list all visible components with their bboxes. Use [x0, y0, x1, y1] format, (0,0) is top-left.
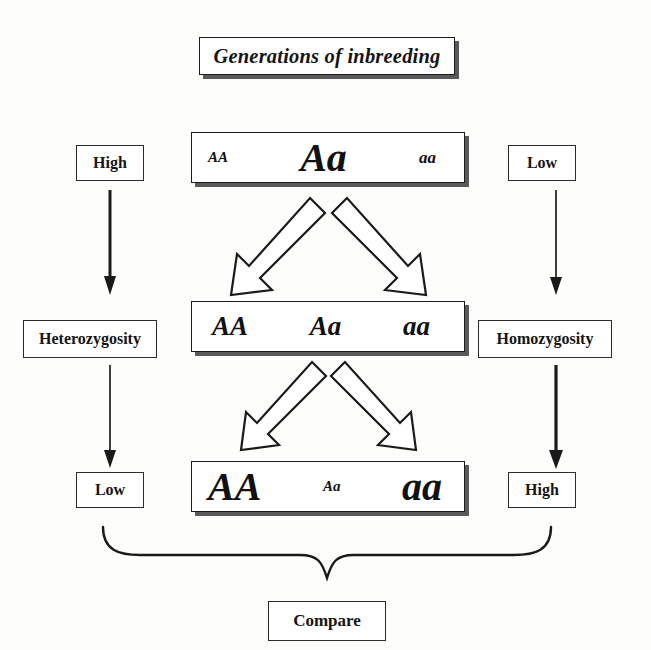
generation-row-2: AA Aa aa [191, 301, 465, 352]
genotype-Aa: Aa [323, 479, 341, 494]
left-bottom-level-box: Low [76, 472, 144, 508]
right-top-level-box: Low [508, 145, 576, 181]
homozygosity-box: Homozygosity [478, 320, 612, 358]
diagram-title-box: Generations of inbreeding [199, 37, 455, 75]
right-arrow-low-to-homozygosity [550, 190, 562, 295]
genotype-AA: AA [208, 467, 261, 507]
block-arrow-down-right-1 [332, 198, 426, 295]
heterozygosity-label: Heterozygosity [39, 330, 141, 348]
left-top-level-label: High [93, 154, 127, 172]
right-arrow-homozygosity-to-high [549, 365, 563, 469]
diagram-canvas: Generations of inbreeding AA Aa aa AA Aa… [0, 0, 651, 650]
right-top-level-label: Low [527, 154, 557, 172]
heterozygosity-box: Heterozygosity [23, 320, 157, 358]
compare-label: Compare [293, 611, 361, 631]
block-arrow-down-left-2 [241, 362, 326, 450]
genotype-Aa: Aa [300, 138, 347, 178]
convergence-brace [103, 527, 551, 578]
left-arrow-heterozygosity-to-low [104, 365, 116, 468]
generation-row-1: AA Aa aa [191, 132, 465, 183]
diagram-title-label: Generations of inbreeding [213, 45, 440, 68]
right-bottom-level-label: High [525, 481, 559, 499]
compare-box: Compare [268, 601, 386, 641]
block-arrow-down-right-2 [331, 362, 416, 450]
block-arrow-down-left-1 [231, 198, 325, 295]
genotype-aa: aa [402, 467, 442, 507]
left-arrow-high-to-heterozygosity [104, 190, 116, 295]
generation-row-3: AA Aa aa [191, 461, 465, 512]
homozygosity-label: Homozygosity [497, 330, 594, 348]
genotype-AA: AA [212, 313, 248, 340]
genotype-aa: aa [419, 149, 436, 166]
genotype-aa: aa [403, 313, 430, 340]
right-bottom-level-box: High [508, 472, 576, 508]
genotype-AA: AA [208, 150, 228, 165]
left-top-level-box: High [76, 145, 144, 181]
genotype-Aa: Aa [310, 313, 342, 340]
left-bottom-level-label: Low [95, 481, 125, 499]
